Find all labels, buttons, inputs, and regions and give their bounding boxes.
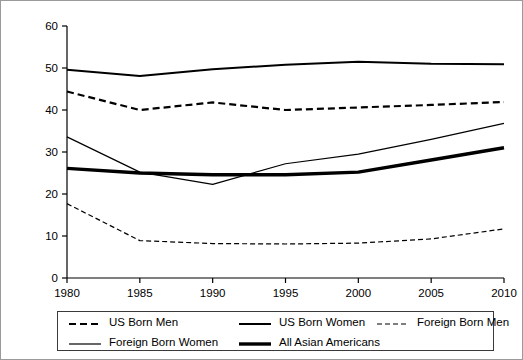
- legend-row: Foreign Born WomenAll Asian Americans: [58, 332, 493, 352]
- y-tick-label: 30: [45, 146, 58, 158]
- legend-label: Foreign Born Women: [109, 336, 218, 348]
- legend-label: US Born Men: [109, 316, 178, 328]
- line-chart: 0102030405060 19801985199019952000200520…: [1, 1, 522, 301]
- legend-item[interactable]: Foreign Born Women: [68, 332, 218, 352]
- y-tick-label: 10: [45, 230, 58, 242]
- x-tick-label-group: 1980198519901995200020052010: [54, 287, 517, 299]
- legend-item[interactable]: All Asian Americans: [238, 332, 380, 352]
- legend-row: US Born MenUS Born WomenForeign Born Men: [58, 312, 493, 332]
- x-tick-label: 1985: [127, 287, 153, 299]
- y-tick-label: 50: [45, 62, 58, 74]
- legend-label: Foreign Born Men: [417, 316, 509, 328]
- legend-line-swatch: [238, 316, 272, 328]
- series-line-foreign-born-men: [67, 204, 504, 244]
- series-line-us-born-men: [67, 92, 504, 110]
- x-tick-label: 2005: [418, 287, 444, 299]
- series-line-all-asian-americans: [67, 148, 504, 175]
- legend-item[interactable]: US Born Women: [238, 312, 365, 332]
- y-axis-ticks: [62, 26, 67, 278]
- plot-area: 0102030405060 19801985199019952000200520…: [1, 1, 522, 301]
- legend-line-swatch: [68, 316, 102, 328]
- y-tick-label: 0: [52, 272, 58, 284]
- y-tick-label: 20: [45, 188, 58, 200]
- x-tick-label: 1980: [54, 287, 80, 299]
- series-line-us-born-women: [67, 62, 504, 76]
- x-axis-ticks: [67, 278, 504, 283]
- legend-line-swatch: [68, 336, 102, 348]
- x-tick-label: 2010: [491, 287, 517, 299]
- x-tick-label: 1995: [273, 287, 299, 299]
- legend-label: All Asian Americans: [279, 336, 380, 348]
- legend-item[interactable]: Foreign Born Men: [376, 312, 509, 332]
- legend-item[interactable]: US Born Men: [68, 312, 178, 332]
- x-tick-label: 2000: [346, 287, 372, 299]
- legend-line-swatch: [238, 336, 272, 348]
- y-tick-label: 60: [45, 20, 58, 32]
- chart-legend: US Born MenUS Born WomenForeign Born Men…: [57, 311, 494, 351]
- x-tick-label: 1990: [200, 287, 226, 299]
- chart-figure: 0102030405060 19801985199019952000200520…: [0, 0, 523, 360]
- y-tick-label: 40: [45, 104, 58, 116]
- y-tick-label-group: 0102030405060: [45, 20, 58, 284]
- data-series-group: [67, 62, 504, 244]
- legend-line-swatch: [376, 316, 410, 328]
- legend-label: US Born Women: [279, 316, 365, 328]
